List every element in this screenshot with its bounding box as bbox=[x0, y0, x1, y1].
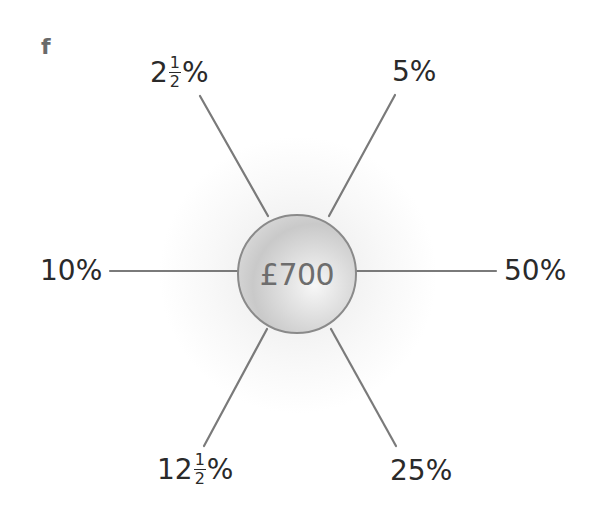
percentage-spider-diagram: f £700 2 1 2 % 5% 10% 50% 12 1 2 % bbox=[0, 0, 595, 525]
whole-part: 12 bbox=[157, 456, 193, 484]
spoke-line-top-right bbox=[329, 95, 395, 216]
center-amount-circle: £700 bbox=[237, 214, 357, 334]
fraction-numerator: 1 bbox=[194, 452, 206, 470]
fraction-numerator: 1 bbox=[169, 55, 181, 73]
spoke-label-left: 10% bbox=[40, 257, 102, 285]
spoke-label-top-left: 2 1 2 % bbox=[150, 55, 209, 90]
spoke-label-top-right: 5% bbox=[392, 58, 436, 86]
fraction-half: 1 2 bbox=[169, 55, 181, 90]
spoke-line-bottom-left bbox=[204, 329, 267, 446]
fraction-half: 1 2 bbox=[194, 452, 206, 487]
percent-sign: % bbox=[207, 456, 234, 484]
center-amount: £700 bbox=[260, 257, 334, 292]
fraction-denominator: 2 bbox=[195, 470, 205, 487]
whole-part: 2 bbox=[150, 59, 168, 87]
spoke-label-bottom-right: 25% bbox=[390, 457, 452, 485]
percent-sign: % bbox=[182, 59, 209, 87]
spoke-label-bottom-left: 12 1 2 % bbox=[157, 452, 233, 487]
spoke-label-right: 50% bbox=[504, 257, 566, 285]
spoke-line-top-left bbox=[200, 96, 268, 216]
spoke-line-bottom-right bbox=[331, 329, 396, 446]
fraction-denominator: 2 bbox=[170, 73, 180, 90]
